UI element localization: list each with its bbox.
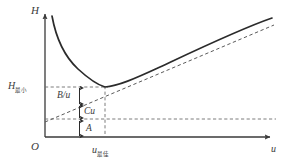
c-u-term-label: Cu: [84, 107, 95, 117]
h-minimum-tick-label: H最小: [8, 81, 27, 94]
plot-svg: [0, 0, 285, 166]
u-optimal-subscript: 最佳: [97, 151, 109, 157]
x-axis-label: u: [271, 144, 276, 154]
a-term-label: A: [86, 124, 92, 134]
origin-label: O: [31, 141, 39, 152]
u-optimal-tick-label: u最佳: [92, 145, 109, 158]
y-axis-label: H: [31, 5, 39, 16]
h-curve: [52, 16, 272, 87]
b-over-u-term-label: B/u: [57, 91, 70, 101]
plate-height-figure: H u O H最小 u最佳 B/u Cu A: [0, 0, 285, 166]
h-minimum-subscript: 最小: [15, 87, 27, 93]
